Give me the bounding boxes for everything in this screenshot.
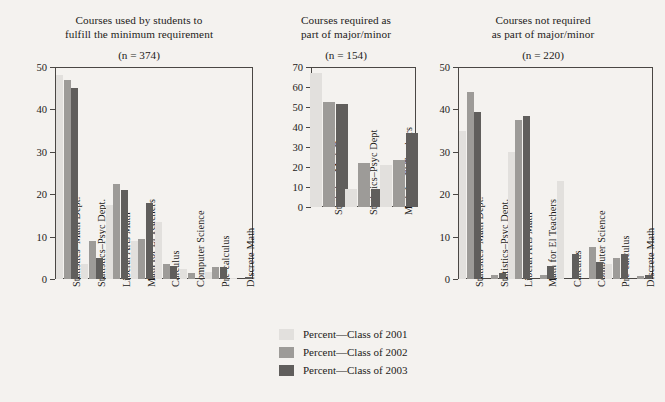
y-axis-tick-label: 20: [424, 189, 450, 200]
bar: [310, 73, 322, 207]
plot-area-1: 01020304050Statistics–Math Dept.Statisti…: [14, 61, 264, 361]
bar: [163, 264, 170, 279]
bar-series-container: [55, 67, 253, 279]
legend-label: Percent—Class of 2002: [303, 346, 407, 358]
bar: [540, 275, 547, 279]
bar: [523, 116, 530, 279]
bar-group: [381, 67, 416, 207]
chart-title-3: Courses not required as part of major/mi…: [424, 14, 662, 41]
plot-area-3: 01020304050Statistics–Math Dept.Statisti…: [424, 61, 662, 361]
y-axis-tick-label: 10: [424, 231, 450, 242]
bar: [113, 184, 120, 279]
chart-legend: Percent—Class of 2001Percent—Class of 20…: [279, 327, 407, 381]
y-axis-tick-label: 30: [277, 142, 303, 153]
y-axis-tick-label: 0: [277, 202, 303, 213]
bar-group: [629, 67, 653, 279]
bar: [138, 239, 145, 279]
bar: [621, 254, 628, 279]
bar-group: [129, 67, 154, 279]
bar: [596, 262, 603, 279]
bar-series-container: [458, 67, 653, 279]
bar: [613, 258, 620, 279]
plot-area-2: 010203040506070Statistics–Math Dept.Stat…: [276, 61, 416, 361]
bar: [605, 264, 612, 279]
bar: [212, 267, 219, 279]
bar: [467, 92, 474, 279]
bar-group: [105, 67, 130, 279]
bar: [557, 181, 564, 279]
bar: [645, 275, 652, 279]
y-axis-tick-label: 30: [424, 146, 450, 157]
bar: [589, 247, 596, 279]
bar: [89, 241, 96, 279]
bar: [121, 190, 128, 279]
bar-group: [458, 67, 482, 279]
bar: [491, 275, 498, 279]
bar: [474, 112, 481, 279]
bar: [459, 131, 466, 279]
bar: [155, 222, 162, 279]
y-axis-tick-label: 0: [21, 274, 47, 285]
legend-item: Percent—Class of 2001: [279, 327, 407, 342]
bar: [380, 165, 392, 207]
y-axis-tick-label: 10: [277, 182, 303, 193]
bar-group: [80, 67, 105, 279]
bar: [64, 80, 71, 279]
legend-swatch: [279, 365, 294, 376]
bar-group: [154, 67, 179, 279]
bar: [170, 266, 177, 279]
y-axis-tick-label: 70: [277, 62, 303, 73]
bar: [106, 205, 113, 279]
bar: [146, 203, 153, 279]
bar: [393, 160, 405, 207]
bar: [81, 264, 88, 279]
chart-subtitle-1: (n = 374): [14, 49, 264, 61]
bar: [96, 258, 103, 279]
bar-group: [556, 67, 580, 279]
y-axis-tick-label: 30: [21, 146, 47, 157]
bar-group: [179, 67, 204, 279]
bar: [345, 189, 357, 207]
bar: [515, 120, 522, 279]
chart-title-1: Courses used by students to fulfill the …: [14, 14, 264, 41]
y-axis-tick-label: 10: [21, 231, 47, 242]
y-axis-tick: [50, 279, 55, 280]
bar: [358, 163, 370, 207]
chart-panel-1: Courses used by students to fulfill the …: [14, 14, 264, 394]
bar: [572, 254, 579, 279]
bar-group: [604, 67, 628, 279]
bar-group: [580, 67, 604, 279]
y-axis-tick: [453, 279, 458, 280]
bar: [71, 88, 78, 279]
legend-item: Percent—Class of 2003: [279, 363, 407, 378]
y-axis-tick-label: 40: [424, 104, 450, 115]
y-axis-tick-label: 20: [21, 189, 47, 200]
bar: [499, 273, 506, 279]
bar: [131, 241, 138, 279]
bar: [547, 266, 554, 279]
figure-root: Courses used by students to fulfill the …: [0, 0, 665, 402]
chart-panel-3: Courses not required as part of major/mi…: [424, 14, 662, 394]
bar: [56, 75, 63, 279]
bar: [180, 269, 187, 279]
y-axis-tick: [306, 207, 311, 208]
chart-title-2: Courses required as part of major/minor: [276, 14, 416, 41]
bar-group: [346, 67, 381, 207]
chart-subtitle-2: (n = 154): [276, 49, 416, 61]
bar: [508, 152, 515, 279]
legend-item: Percent—Class of 2002: [279, 345, 407, 360]
bar-group: [507, 67, 531, 279]
legend-swatch: [279, 329, 294, 340]
bar-group: [482, 67, 506, 279]
bar-group: [228, 67, 253, 279]
bar: [245, 277, 252, 279]
bar-group: [55, 67, 80, 279]
y-axis-tick-label: 0: [424, 274, 450, 285]
bar-series-container: [311, 67, 416, 207]
bar: [406, 133, 418, 207]
y-axis-tick-label: 50: [21, 62, 47, 73]
bar: [637, 276, 644, 279]
legend-label: Percent—Class of 2001: [303, 328, 407, 340]
bar-group: [311, 67, 346, 207]
chart-subtitle-3: (n = 220): [424, 49, 662, 61]
